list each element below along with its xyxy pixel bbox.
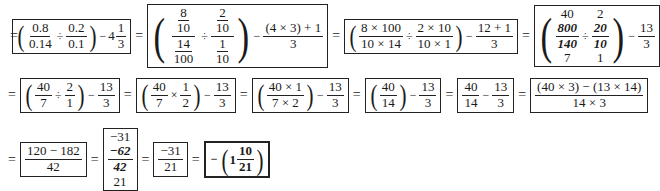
numerator: 13 [327,80,344,96]
fraction: 12 + 13 [476,21,513,52]
fraction: 133 [98,80,115,111]
denominator: 3 [116,37,127,52]
fraction: 120 − 18242 [25,144,82,175]
step-12: −31 −62 42 21 [103,128,138,191]
cancelled-fraction: 2 20 10 1 [592,7,609,65]
reduced-numerator: 2 [597,7,604,21]
minus-sign: − [317,88,324,103]
fraction: 4014 [462,80,479,111]
fraction: 40 × 17 × 2 [267,80,304,111]
divide-sign: ÷ [582,29,589,44]
denominator: 7 [38,96,49,111]
fraction: 407 [35,80,52,111]
denominator: 10 [592,37,609,51]
divide-sign: ÷ [201,29,208,44]
right-paren: ) [455,21,462,51]
numerator: 13 [98,80,115,96]
step-11: 120 − 18242 [20,142,87,177]
numerator: 800 [556,21,580,36]
fraction: 13 [116,21,127,52]
whole-number: 4 [108,28,115,44]
reduced-numerator: −31 [110,130,130,144]
numerator: 2 [65,80,76,96]
step-6: ( 407 × 12 ) − 133 [136,78,236,113]
denominator: 3 [495,96,506,111]
denominator: 14100 [169,37,199,67]
fraction: 110 [214,37,231,67]
numerator: 12 + 1 [476,21,513,37]
denominator: 14 [380,96,397,111]
fraction: 12 [180,80,191,111]
right-paren: ) [399,80,406,110]
equals-sign: = [124,87,132,103]
step-3: ( 8 × 10010 × 14 ÷ 2 × 1010 × 1 ) − 12 +… [344,19,518,54]
denominator: 3 [217,96,228,111]
reduced-numerator: 40 [561,7,574,21]
multiply-sign: × [171,88,178,103]
equals-sign: = [135,28,143,44]
numerator: 120 − 182 [25,144,82,160]
right-paren: ) [307,80,314,110]
step-8: ( 4014 ) − 133 [365,78,442,113]
minus-sign: − [204,88,211,103]
left-paren: ( [540,11,552,61]
numerator: 2 × 10 [416,21,453,37]
minus-sign: − [211,152,218,167]
right-paren: ) [193,80,200,110]
numerator: 1 [180,80,191,96]
numerator: 40 [35,80,52,96]
minus-sign: − [88,88,95,103]
equals-sign: = [445,87,453,103]
equals-sign: = [142,152,150,168]
reduced-denominator: 7 [564,51,571,65]
complex-fraction: 210 110 [211,6,234,66]
fraction: 210 [214,6,231,36]
fraction: 4014 [380,80,397,111]
numerator: 13 [214,80,231,96]
fraction: 0.80.14 [27,21,54,52]
numerator: 0.2 [66,21,86,37]
equals-sign: = [332,28,340,44]
minus-sign: − [410,88,417,103]
denominator: 1 [65,96,76,111]
numerator: 210 [211,6,234,37]
left-paren: ( [257,80,264,110]
fraction: (4 × 3) + 13 [263,21,323,51]
denominator: 3 [330,96,341,111]
denominator: 3 [489,37,500,52]
complex-fraction: 810 14100 [169,6,199,66]
divide-sign: ÷ [55,88,62,103]
numerator: 0.8 [30,21,50,37]
denominator: 0.14 [27,37,54,52]
denominator: 10 [175,21,192,35]
minus-sign: − [100,29,107,44]
step-2: ( 810 14100 ÷ 210 110 ) − (4 × 3) + 13 [147,4,328,68]
step-1: ( 0.80.14 ÷ 0.20.1 ) − 4 13 [12,19,131,54]
step-13: −3121 [153,142,187,177]
denominator: 110 [211,37,234,67]
numerator: 1 [116,21,127,37]
left-paren: ( [221,145,228,175]
numerator: 40 × 1 [267,80,304,96]
cancelled-fraction: −31 −62 42 21 [108,130,133,189]
equals-sign: = [353,87,361,103]
denominator: 10 × 1 [416,37,453,52]
denominator: 0.1 [66,37,86,52]
minus-sign: − [254,29,261,44]
equation-row-2: = ( 407 ÷ 21 ) − 133 = ( 407 × 12 ) − 13… [4,78,648,113]
numerator: 2 [217,6,228,21]
denominator: 7 [154,96,165,111]
left-paren: ( [350,21,357,51]
equation-row-1: = ( 0.80.14 ÷ 0.20.1 ) − 4 13 = ( 810 14… [6,4,660,68]
denominator: 14 × 3 [571,96,608,111]
equation-row-3: = 120 − 18242 = −31 −62 42 21 = −3121 = … [4,128,270,191]
right-paren: ) [257,145,264,175]
denominator: 14 [462,96,479,111]
step-7: ( 40 × 17 × 2 ) − 133 [252,78,349,113]
right-paren: ) [89,21,96,51]
step-4: ( 40 800 140 7 ÷ 2 20 10 1 ) − 133 [534,5,660,67]
denominator: 3 [101,96,112,111]
left-paren: ( [154,11,166,61]
fraction: 8 × 10010 × 14 [359,21,403,52]
right-paren: ) [612,11,624,61]
